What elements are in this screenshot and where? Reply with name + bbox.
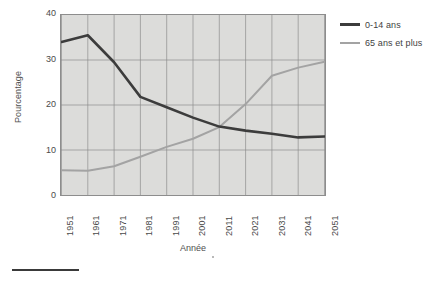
x-axis-tick-label: 2011: [224, 216, 234, 236]
y-axis-title: Pourcentage: [13, 57, 23, 137]
x-axis-tick-labels: 1951196119711981199120012011202120312041…: [60, 196, 326, 242]
chart-figure: Pourcentage 403020100 195119611971198119…: [0, 0, 427, 286]
legend-item-label: 0-14 ans: [365, 20, 401, 30]
x-axis-tick-label: 1951: [65, 215, 75, 236]
x-axis-tick-label: 2051: [330, 215, 340, 236]
gray-line-swatch-icon: [340, 42, 360, 44]
chart-legend: 0-14 ans 65 ans et plus: [340, 19, 426, 55]
y-axis-tick-label: 40: [34, 9, 56, 18]
x-axis-tick-label: 1991: [171, 215, 181, 236]
dark-line-swatch-icon: [340, 23, 360, 26]
y-axis-tick-label: 0: [34, 191, 56, 200]
y-axis-tick-label: 20: [34, 100, 56, 109]
legend-item: 0-14 ans: [340, 19, 426, 30]
legend-item-label: 65 ans et plus: [365, 38, 422, 48]
x-axis-title: Année: [60, 243, 326, 253]
x-axis-tick-label: 1961: [91, 215, 101, 236]
y-axis-tick-label: 30: [34, 55, 56, 64]
chart-canvas: [61, 15, 325, 195]
footnote-separator: [12, 269, 79, 271]
x-axis-tick-label: 1981: [144, 215, 154, 236]
legend-item: 65 ans et plus: [340, 37, 426, 48]
x-axis-tick-label: 2021: [250, 215, 260, 236]
plot-area: [60, 14, 326, 196]
x-axis-tick-label: 2031: [277, 215, 287, 236]
y-axis-tick-label: 10: [34, 146, 56, 155]
x-axis-tick-label: 1971: [118, 215, 128, 236]
x-axis-tick-label: 2001: [197, 215, 207, 236]
x-axis-tick-label: 2041: [303, 215, 313, 236]
page-dot-mark: [212, 256, 214, 258]
y-axis-tick-labels: 403020100: [33, 0, 56, 286]
